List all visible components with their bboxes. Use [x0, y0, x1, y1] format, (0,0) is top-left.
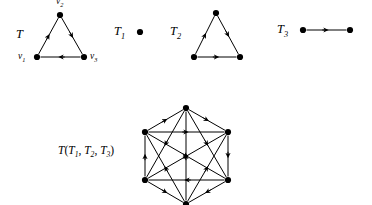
label-tournament-T1: T1: [114, 25, 125, 41]
sub-T3: 3: [284, 30, 288, 39]
graph-drawing-surface: [0, 0, 372, 205]
label-vertex-v1: v1: [18, 52, 25, 63]
arrowhead-p2-p1: [162, 120, 166, 122]
vertex-composition-p5: [225, 177, 231, 183]
comp-comma-1: ,: [78, 144, 81, 156]
graph-edges: [39, 16, 347, 202]
label-vertex-v2: v2: [56, 0, 63, 8]
vertex-T2-b2: [213, 10, 219, 16]
sub-v3: 3: [94, 56, 97, 63]
vertex-T1-a1: [137, 29, 143, 35]
arrowhead-v2-v3: [70, 32, 72, 36]
label-composition: T(T1, T2, T3): [58, 145, 114, 159]
vertex-composition-p6: [183, 201, 189, 205]
vertex-T3-c2: [347, 27, 353, 33]
vertex-composition-p1: [183, 105, 189, 111]
comp-close-paren: ): [110, 144, 114, 156]
vertex-composition-p2: [142, 129, 148, 135]
arrowhead-p1-p5: [205, 140, 207, 144]
figure-canvas: T v1 v2 v3 T1 T2 T3 T(T1, T2, T3): [0, 0, 372, 205]
sub-T2: 2: [177, 32, 181, 41]
arrowhead-p1-p3: [203, 118, 207, 120]
vertex-T-v2: [57, 12, 63, 18]
sub-T1: 1: [121, 32, 125, 41]
comp-comma-2: ,: [94, 144, 97, 156]
vertex-composition-p3: [225, 129, 231, 135]
arrowhead-p4-p6: [162, 190, 166, 192]
arrowhead-p5-p6: [207, 190, 211, 192]
vertex-T2-b3: [237, 54, 243, 60]
vertex-T-v3: [81, 54, 87, 60]
vertex-composition-p4: [142, 177, 148, 183]
graph-vertices: [34, 10, 353, 205]
arrowhead-p6-p3: [205, 168, 207, 172]
arrowhead-b1-b2: [203, 35, 205, 39]
arrowhead-v1-v2: [46, 36, 48, 40]
label-vertex-v3: v3: [90, 52, 97, 63]
arrowhead-b2-b3: [226, 31, 228, 35]
label-tournament-T2: T2: [170, 25, 181, 41]
vertex-T-v1: [34, 54, 40, 60]
label-tournament-T3: T3: [277, 23, 288, 39]
vertex-T3-c1: [300, 27, 306, 33]
vertex-T2-b1: [191, 54, 197, 60]
label-tournament-T: T: [16, 28, 23, 41]
sub-v2: 2: [60, 1, 63, 8]
sub-v1: 1: [22, 56, 25, 63]
